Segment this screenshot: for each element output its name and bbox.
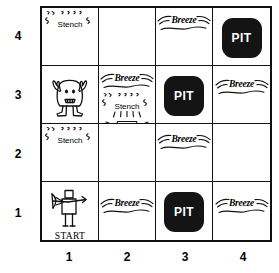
pit-label: PIT [174,89,194,103]
pit-icon: PIT [222,18,262,58]
cell-1-2[interactable]: Stench [42,124,99,182]
agent-icon [48,188,92,230]
col-label-2: 2 [98,246,156,268]
wumpus-world-diagram: 4 3 2 1 Ste [0,0,279,273]
cell-3-2[interactable]: Breeze [156,124,213,182]
col-label-4: 4 [214,246,272,268]
pit-label: PIT [174,205,194,219]
cell-1-3[interactable] [42,66,99,124]
cell-4-2[interactable] [213,124,270,182]
gold-icon: Gold [101,111,153,124]
cell-1-4[interactable]: Stench [42,8,99,66]
cell-2-3[interactable]: Breeze Stench [99,66,156,124]
breeze-label: Breeze [156,134,212,144]
breeze-label: Breeze [214,198,270,208]
agent-start: START [48,188,92,240]
row-label-3: 3 [0,65,36,124]
cell-4-4[interactable]: PIT [213,8,270,66]
breeze-icon: Breeze [156,12,212,34]
stench-label: Stench [44,136,96,145]
pit-label: PIT [231,31,251,45]
wumpus-icon [47,73,93,124]
stench-icon: Stench [44,127,96,145]
stench-icon: Stench [101,93,153,111]
row-label-1: 1 [0,183,36,242]
breeze-label: Breeze [156,15,212,25]
breeze-label: Breeze [99,198,155,208]
breeze-icon: Breeze [99,70,155,92]
cell-3-3[interactable]: PIT [156,66,213,124]
row-label-2: 2 [0,124,36,183]
cell-3-4[interactable]: Breeze [156,8,213,66]
breeze-icon: Breeze [214,195,270,217]
cell-2-4[interactable] [99,8,156,66]
column-axis-labels: 1 2 3 4 [40,246,272,268]
grid: Stench Breeze PIT [40,6,272,242]
breeze-icon: Breeze [156,131,212,153]
col-label-1: 1 [40,246,98,268]
col-label-3: 3 [156,246,214,268]
breeze-label: Breeze [214,79,270,89]
stench-label: Stench [44,20,96,29]
cell-4-3[interactable]: Breeze [213,66,270,124]
breeze-label: Breeze [99,73,155,83]
cell-2-2[interactable] [99,124,156,182]
cell-3-1[interactable]: PIT [156,182,213,240]
row-label-4: 4 [0,6,36,65]
cell-1-1[interactable]: START [42,182,99,240]
start-label: START [55,231,85,240]
cell-2-1[interactable]: Breeze [99,182,156,240]
stench-icon: Stench [44,11,96,29]
pit-icon: PIT [164,192,204,232]
breeze-icon: Breeze [214,76,270,98]
cell-4-1[interactable]: Breeze [213,182,270,240]
breeze-icon: Breeze [99,195,155,217]
pit-icon: PIT [164,76,204,116]
stench-label: Stench [101,102,153,111]
row-axis-labels: 4 3 2 1 [0,6,40,242]
